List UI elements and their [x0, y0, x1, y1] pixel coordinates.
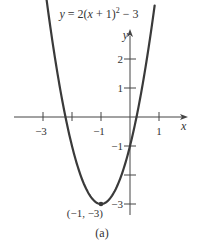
x-tick-label: −3 — [35, 125, 47, 137]
y-tick-label: 2 — [118, 53, 124, 65]
y-axis-label: y — [122, 28, 129, 42]
parabola-chart: y = 2(x + 1)2 − 3 −3−1121−1−3 (−1, −3) x… — [0, 0, 198, 246]
vertex-point — [99, 202, 104, 207]
x-axis-label: x — [180, 119, 187, 133]
parabola-curve — [46, 0, 155, 204]
chart-title: y = 2(x + 1)2 − 3 — [59, 6, 139, 21]
y-tick-label: 1 — [118, 82, 124, 94]
x-tick-label: 1 — [156, 125, 162, 137]
y-tick-label: −1 — [111, 140, 123, 152]
ticks: −3−1121−1−3 — [35, 53, 162, 210]
y-tick-label: −3 — [111, 198, 123, 210]
axes — [14, 29, 188, 215]
vertex-label: (−1, −3) — [67, 207, 104, 220]
figure-caption: (a) — [95, 226, 108, 240]
x-tick-label: −1 — [93, 125, 105, 137]
